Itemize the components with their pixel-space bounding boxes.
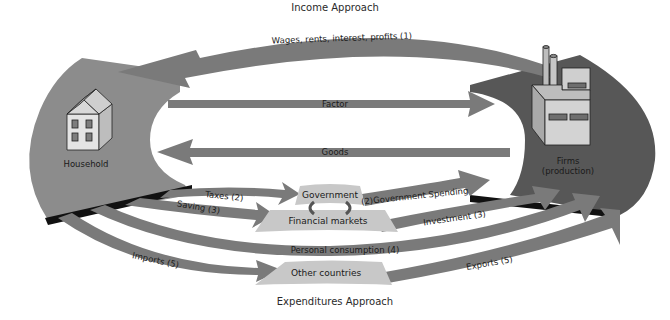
firms-label: Firms xyxy=(557,156,580,166)
income-approach-title: Income Approach xyxy=(291,2,379,13)
circular-flow-diagram: Income Approach Expenditures Approach Wa… xyxy=(0,0,670,320)
wages-flow-arrow xyxy=(118,38,550,88)
government-label: Government xyxy=(302,190,359,200)
other-countries-label: Other countries xyxy=(291,268,362,278)
firms-sublabel: (production) xyxy=(542,166,594,176)
factor-flow-label: Factor xyxy=(322,99,349,109)
household-label: Household xyxy=(64,159,109,169)
financial-markets-label: Financial markets xyxy=(289,216,368,226)
expenditures-approach-title: Expenditures Approach xyxy=(277,296,393,307)
goods-flow-label: Goods xyxy=(322,147,349,157)
personal-consumption-flow-label: Personal consumption (4) xyxy=(291,245,400,255)
